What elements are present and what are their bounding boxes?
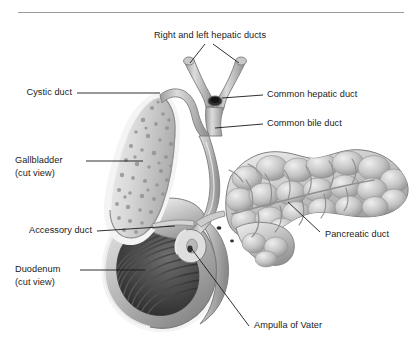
anatomy-illustration (0, 0, 420, 348)
label-common-bile-duct: Common bile duct (267, 118, 342, 130)
label-common-hepatic-duct: Common hepatic duct (267, 89, 357, 101)
label-duodenum: Duodenum (15, 264, 60, 276)
anatomy-figure: Right and left hepatic ducts Cystic duct… (0, 0, 420, 348)
label-cystic-duct: Cystic duct (0, 87, 72, 99)
label-right-and-left-hepatic-ducts: Right and left hepatic ducts (125, 30, 295, 42)
label-ampulla-of-vater: Ampulla of Vater (254, 320, 322, 332)
label-gallbladder-note: (cut view) (15, 168, 55, 180)
minor-duodenal-papilla (217, 226, 222, 229)
label-accessory-duct: Accessory duct (0, 225, 92, 237)
leader-common-bile-duct (215, 124, 263, 128)
label-duodenum-note: (cut view) (15, 277, 55, 289)
label-pancreatic-duct: Pancreatic duct (325, 229, 389, 241)
label-gallbladder: Gallbladder (15, 155, 63, 167)
leader-right-hepatic-duct (190, 44, 205, 63)
leader-left-hepatic-duct (213, 44, 239, 63)
common-hepatic-duct (206, 107, 224, 136)
